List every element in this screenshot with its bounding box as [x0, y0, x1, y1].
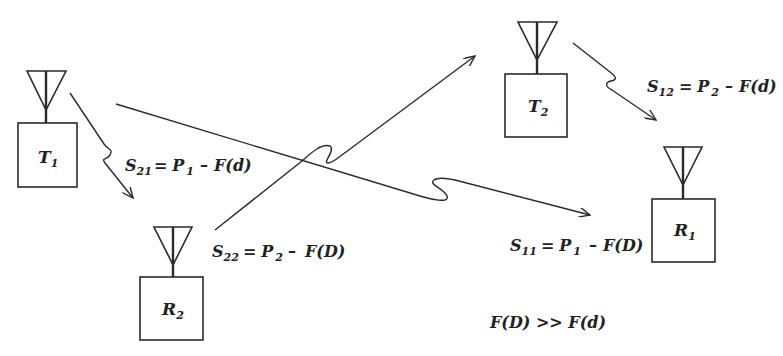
signal-path-t1-r1 [116, 104, 590, 215]
antenna-icon [27, 71, 66, 123]
station-label: T1 [38, 147, 58, 170]
signal-path-t2-r1 [573, 43, 656, 120]
station-t2: T2 [505, 22, 567, 137]
note-inequality: F(D) >> F(d) [489, 313, 606, 332]
station-t1: T1 [18, 71, 77, 187]
station-r1: R1 [652, 147, 715, 262]
interference-diagram: T1 R2 T2 R1 S21=P1–F(d) [0, 0, 783, 356]
equation-s22: S22=P2–F(D) [212, 242, 345, 264]
equation-s21: S21=P1–F(d) [125, 156, 252, 178]
antenna-icon [664, 147, 702, 199]
station-label: R1 [673, 220, 696, 243]
station-label: R2 [161, 299, 184, 322]
equation-s12: S12=P2–F(d) [647, 77, 777, 99]
signal-path-r2-t2 [215, 56, 475, 230]
antenna-icon [518, 22, 557, 74]
signal-path-t1-r2 [70, 93, 133, 198]
station-label: T2 [528, 96, 549, 119]
equation-s11: S11=P1–F(D) [510, 236, 643, 258]
antenna-icon [154, 227, 192, 277]
station-r2: R2 [140, 227, 203, 340]
